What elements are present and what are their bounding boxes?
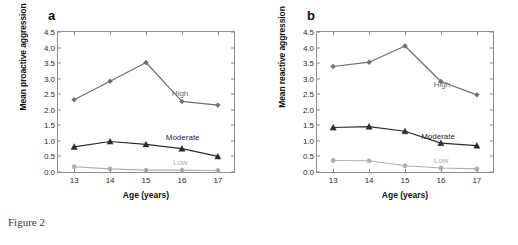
y-tick-mark [317, 140, 320, 141]
x-tick-mark [333, 32, 334, 35]
x-tick-mark [146, 169, 147, 172]
x-tick-mark [405, 32, 406, 35]
series-label-moderate: Moderate [421, 132, 455, 141]
y-tick-mark [317, 78, 320, 79]
y-tick-mark [317, 94, 320, 95]
x-tick-mark [110, 169, 111, 172]
x-tick-mark [218, 169, 219, 172]
x-tick-mark [369, 169, 370, 172]
y-tick-mark [231, 156, 234, 157]
y-tick-label: 4.5 [44, 28, 55, 37]
figure-2: a Mean proactive aggression 0.00.51.01.5… [0, 0, 518, 245]
data-point-marker [367, 159, 371, 163]
plot-area-b: 0.00.51.01.52.02.53.03.54.04.51314151617… [316, 31, 494, 173]
x-tick-label: 15 [401, 176, 410, 185]
y-tick-mark [231, 125, 234, 126]
y-tick-mark [58, 32, 61, 33]
y-tick-label: 1.0 [303, 136, 314, 145]
y-tick-mark [490, 63, 493, 64]
x-axis-title-b: Age (years) [316, 190, 494, 200]
y-tick-mark [231, 109, 234, 110]
y-tick-label: 4.5 [303, 28, 314, 37]
y-tick-label: 2.5 [44, 90, 55, 99]
y-tick-mark [231, 32, 234, 33]
y-tick-mark [490, 156, 493, 157]
y-tick-label: 3.5 [44, 59, 55, 68]
x-tick-mark [369, 32, 370, 35]
y-tick-label: 1.5 [303, 121, 314, 130]
series-line-high [333, 46, 477, 95]
y-tick-mark [317, 47, 320, 48]
data-point-marker [474, 92, 479, 97]
data-point-marker [331, 64, 336, 69]
y-tick-mark [58, 47, 61, 48]
x-tick-mark [477, 32, 478, 35]
y-tick-mark [58, 63, 61, 64]
y-tick-mark [317, 32, 320, 33]
y-tick-mark [490, 109, 493, 110]
y-tick-label: 0.5 [44, 152, 55, 161]
x-tick-mark [218, 32, 219, 35]
y-tick-label: 3.0 [44, 74, 55, 83]
series-label-moderate: Moderate [166, 133, 200, 142]
figure-caption: Figure 2 [8, 216, 45, 228]
y-tick-mark [58, 109, 61, 110]
x-tick-label: 15 [142, 176, 151, 185]
x-tick-label: 13 [70, 176, 79, 185]
y-tick-mark [490, 125, 493, 126]
plot-area-a: 0.00.51.01.52.02.53.03.54.04.51314151617… [57, 31, 235, 173]
x-tick-label: 16 [436, 176, 445, 185]
y-tick-mark [58, 125, 61, 126]
y-tick-mark [317, 172, 320, 173]
y-tick-mark [231, 140, 234, 141]
data-point-marker [331, 158, 335, 162]
y-tick-mark [317, 109, 320, 110]
y-tick-mark [231, 47, 234, 48]
y-tick-mark [58, 156, 61, 157]
y-tick-label: 1.5 [44, 121, 55, 130]
x-tick-mark [182, 169, 183, 172]
chart-panel-b: b Mean reactive aggression 0.00.51.01.52… [259, 0, 518, 208]
y-axis-title-a: Mean proactive aggression [18, 0, 28, 127]
series-label-low: Low [173, 157, 188, 166]
series-layer-b [317, 32, 493, 172]
x-tick-label: 17 [213, 176, 222, 185]
x-tick-mark [110, 32, 111, 35]
series-label-high: High [434, 80, 450, 89]
y-tick-mark [490, 140, 493, 141]
y-tick-mark [231, 172, 234, 173]
y-tick-label: 2.0 [44, 105, 55, 114]
y-tick-mark [317, 156, 320, 157]
x-tick-mark [74, 169, 75, 172]
x-tick-mark [333, 169, 334, 172]
y-tick-label: 3.0 [303, 74, 314, 83]
x-tick-label: 14 [106, 176, 115, 185]
y-tick-label: 0.0 [44, 168, 55, 177]
x-tick-mark [441, 169, 442, 172]
y-tick-mark [317, 63, 320, 64]
y-tick-label: 3.5 [303, 59, 314, 68]
series-layer-a [58, 32, 234, 172]
data-point-marker [367, 60, 372, 65]
y-tick-mark [58, 140, 61, 141]
y-tick-label: 4.0 [44, 43, 55, 52]
panel-label-b: b [307, 8, 315, 23]
y-tick-mark [490, 172, 493, 173]
x-tick-mark [441, 32, 442, 35]
y-tick-mark [317, 125, 320, 126]
y-tick-label: 0.5 [303, 152, 314, 161]
x-tick-mark [405, 169, 406, 172]
y-tick-mark [58, 94, 61, 95]
data-point-marker [403, 164, 407, 168]
y-tick-mark [490, 94, 493, 95]
y-tick-mark [490, 32, 493, 33]
x-tick-mark [477, 169, 478, 172]
y-axis-title-b: Mean reactive aggression [277, 0, 287, 127]
x-tick-mark [74, 32, 75, 35]
series-label-low: Low [434, 156, 449, 165]
y-tick-mark [490, 78, 493, 79]
y-tick-mark [58, 172, 61, 173]
y-tick-mark [231, 78, 234, 79]
y-tick-label: 1.0 [44, 136, 55, 145]
x-tick-label: 17 [472, 176, 481, 185]
